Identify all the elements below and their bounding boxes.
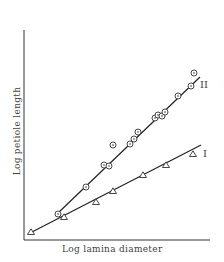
triangle-marker bbox=[190, 151, 197, 157]
series-II-label: II bbox=[200, 79, 208, 90]
circle-marker-dot bbox=[154, 117, 156, 119]
circle-marker-dot bbox=[190, 85, 192, 87]
circle-marker-dot bbox=[133, 138, 135, 140]
scatter-plot bbox=[0, 0, 224, 262]
circle-marker-dot bbox=[57, 213, 59, 215]
circle-marker-dot bbox=[108, 165, 110, 167]
circle-marker-dot bbox=[85, 186, 87, 188]
circle-marker-dot bbox=[164, 111, 166, 113]
y-axis-label: Log petiole length bbox=[12, 76, 22, 186]
circle-marker-dot bbox=[103, 164, 105, 166]
circle-marker-dot bbox=[129, 143, 131, 145]
x-axis-label: Log lamina diameter bbox=[62, 244, 163, 254]
circle-marker-dot bbox=[157, 114, 159, 116]
circle-marker-dot bbox=[137, 131, 139, 133]
triangle-marker bbox=[140, 172, 147, 178]
series-I-label: I bbox=[203, 148, 207, 159]
circle-marker-dot bbox=[193, 72, 195, 74]
circle-marker-dot bbox=[161, 115, 163, 117]
circle-marker-dot bbox=[177, 95, 179, 97]
circle-marker-dot bbox=[112, 144, 114, 146]
